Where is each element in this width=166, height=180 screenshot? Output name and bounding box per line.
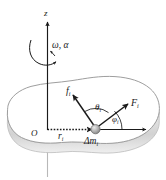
label-external-force: Fi [131, 98, 139, 109]
label-angle-theta: θi [95, 103, 101, 113]
rotation-label-pointer [51, 51, 56, 56]
label-internal-force-subscript: i [69, 90, 71, 97]
label-z-axis: z [44, 9, 48, 18]
label-omega-alpha: ω, α [52, 41, 68, 51]
label-angle-phi-subscript: i [117, 119, 119, 125]
label-angle-theta-subscript: i [99, 107, 101, 113]
label-internal-force: fi [66, 86, 71, 97]
mass-element-particle [91, 125, 100, 134]
label-mass-element: Δmi [84, 137, 98, 148]
physics-diagram: z ω, α fi Fi θi φi O ri Δmi [0, 0, 166, 180]
label-radius: ri [58, 132, 63, 143]
label-mass-element-subscript: i [96, 141, 98, 147]
label-origin: O [31, 129, 38, 138]
label-radius-subscript: i [62, 136, 64, 142]
diagram-canvas [0, 0, 166, 180]
label-mass-element-symbol: Δm [84, 136, 96, 146]
label-external-force-subscript: i [137, 102, 139, 109]
label-angle-phi: φi [112, 115, 119, 125]
